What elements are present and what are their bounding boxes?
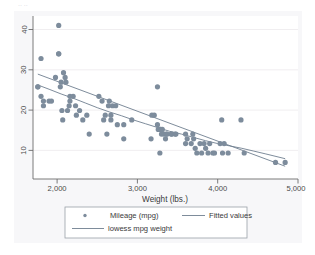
scatter-point — [71, 94, 76, 99]
scatter-point — [238, 117, 243, 122]
scatter-point — [191, 136, 196, 141]
scatter-point — [63, 75, 68, 80]
scatter-plot-svg: ·· ·· 40 30 20 10 — [0, 0, 315, 255]
scatter-point — [183, 141, 188, 146]
scatter-point — [73, 103, 78, 108]
scatter-point — [99, 98, 104, 103]
scatter-point — [49, 98, 54, 103]
scatter-point — [222, 141, 227, 146]
scatter-point — [58, 84, 63, 89]
scatter-point — [56, 23, 61, 28]
legend-label-fitted: Fitted values — [209, 211, 252, 220]
scatter-point — [61, 70, 66, 75]
scatter-point — [87, 132, 92, 137]
scatter-point — [194, 150, 199, 155]
y-tick-label-20: 20 — [20, 106, 29, 114]
scatter-point — [103, 113, 108, 118]
scatter-point — [199, 150, 204, 155]
y-tick-label-30: 30 — [20, 66, 29, 74]
y-tick-label-40: 40 — [20, 25, 29, 33]
scatter-point — [173, 132, 178, 137]
scatter-point — [41, 103, 46, 108]
legend: Mileage (mpg) Fitted values lowess mpg w… — [65, 207, 252, 238]
scatter-point — [129, 117, 134, 122]
scatter-point — [193, 146, 198, 151]
scatter-point — [226, 150, 231, 155]
scatter-point — [201, 141, 206, 146]
scatter-point — [155, 122, 160, 127]
scatter-point — [56, 51, 61, 56]
chart-figure: ·· ·· 40 30 20 10 — [0, 0, 315, 255]
scatter-point — [157, 150, 162, 155]
scatter-point — [283, 160, 288, 165]
scatter-point — [67, 98, 72, 103]
scatter-point — [38, 94, 43, 99]
scatter-point — [185, 136, 190, 141]
scatter-point — [77, 108, 82, 113]
legend-marker-mileage — [83, 214, 86, 217]
x-tick-label-4000: 4,000 — [208, 184, 227, 193]
scatter-point — [108, 117, 113, 122]
scatter-point — [121, 122, 126, 127]
scatter-point — [189, 141, 194, 146]
scatter-point — [220, 150, 225, 155]
scatter-point — [41, 98, 46, 103]
scatter-point — [155, 84, 160, 89]
top-text-fragment: ·· ·· — [18, 2, 28, 8]
y-tick-label-10: 10 — [20, 146, 29, 154]
scatter-point — [148, 136, 153, 141]
scatter-point — [35, 84, 40, 89]
x-axis-title: Weight (lbs.) — [142, 195, 188, 204]
scatter-point — [160, 127, 165, 132]
scatter-point — [107, 98, 112, 103]
scatter-point — [190, 132, 195, 137]
scatter-point — [152, 113, 157, 118]
scatter-point — [113, 103, 118, 108]
legend-label-lowess: lowess mpg weight — [108, 224, 173, 233]
scatter-point — [212, 150, 217, 155]
scatter-point — [59, 108, 64, 113]
scatter-point — [242, 150, 247, 155]
scatter-point — [67, 103, 72, 108]
x-tick-label-3000: 3,000 — [128, 184, 147, 193]
scatter-point — [273, 160, 278, 165]
scatter-point — [53, 75, 58, 80]
scatter-point — [104, 132, 109, 137]
scatter-point — [108, 113, 113, 118]
scatter-point — [74, 113, 79, 118]
scatter-point — [65, 108, 70, 113]
scatter-point — [115, 122, 120, 127]
scatter-point — [80, 117, 85, 122]
scatter-point — [203, 146, 208, 151]
scatter-point — [219, 117, 224, 122]
scatter-point — [60, 117, 65, 122]
scatter-point — [63, 80, 68, 85]
scatter-point — [207, 141, 212, 146]
scatter-point — [84, 113, 89, 118]
scatter-point — [205, 150, 210, 155]
scatter-point — [96, 94, 101, 99]
scatter-point — [59, 80, 64, 85]
scatter-point — [183, 132, 188, 137]
x-tick-label-5000: 5,000 — [286, 184, 305, 193]
scatter-point — [38, 56, 43, 61]
scatter-point — [101, 117, 106, 122]
scatter-point — [163, 136, 168, 141]
x-tick-label-2000: 2,000 — [48, 184, 67, 193]
legend-label-mileage: Mileage (mpg) — [110, 211, 159, 220]
scatter-point — [121, 136, 126, 141]
